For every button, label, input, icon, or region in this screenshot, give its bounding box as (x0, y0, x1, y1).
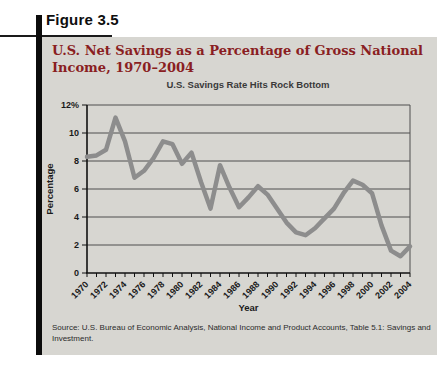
chart-svg: 024681012%197019721974197619781980198219… (0, 0, 445, 369)
x-tick-label: 1990 (259, 279, 280, 300)
y-tick-label: 8 (74, 156, 79, 166)
x-tick-label: 1978 (145, 279, 166, 300)
y-axis-title: Percentage (44, 163, 55, 214)
x-tick-label: 1996 (316, 279, 337, 300)
x-tick-label: 1976 (126, 279, 147, 300)
x-tick-label: 1998 (335, 279, 356, 300)
y-tick-label: 0 (74, 268, 79, 278)
x-tick-label: 2004 (392, 279, 413, 300)
x-tick-label: 2002 (373, 279, 394, 300)
x-tick-label: 1984 (202, 279, 223, 300)
figure-page: Figure 3.5 U.S. Net Savings as a Percent… (0, 0, 445, 369)
x-tick-label: 1986 (221, 279, 242, 300)
x-tick-label: 1972 (88, 279, 109, 300)
y-tick-label: 4 (74, 212, 79, 222)
source-line-1: Source: U.S. Bureau of Economic Analysis… (52, 322, 432, 333)
y-tick-label: 2 (74, 240, 79, 250)
x-tick-label: 1988 (240, 279, 261, 300)
x-tick-label: 1982 (183, 279, 204, 300)
x-tick-label: 1994 (297, 279, 318, 300)
x-tick-label: 1980 (164, 279, 185, 300)
y-tick-label: 6 (74, 184, 79, 194)
y-tick-label: 10 (69, 128, 79, 138)
x-axis-title: Year (238, 302, 258, 313)
y-tick-label: 12% (61, 100, 79, 110)
series-line (87, 118, 410, 257)
source-line-2: Investment. (52, 333, 432, 344)
x-tick-label: 1992 (278, 279, 299, 300)
x-tick-label: 1970 (69, 279, 90, 300)
x-tick-label: 1974 (107, 279, 128, 300)
x-tick-label: 2000 (354, 279, 375, 300)
plot-area: 024681012%197019721974197619781980198219… (44, 100, 413, 313)
source-note: Source: U.S. Bureau of Economic Analysis… (52, 322, 432, 344)
